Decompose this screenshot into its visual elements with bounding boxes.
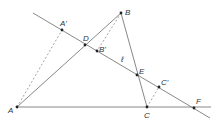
label-C-prime: C'	[161, 78, 169, 87]
point-D	[84, 44, 87, 47]
label-C: C	[144, 111, 150, 120]
side-ab	[17, 13, 121, 107]
point-E	[136, 74, 139, 77]
line-l-label: ℓ	[120, 55, 124, 64]
point-A-prime	[61, 29, 64, 32]
points-layer	[16, 12, 196, 110]
point-B-prime	[96, 50, 99, 53]
point-C-prime	[158, 86, 161, 89]
label-A: A	[7, 106, 13, 115]
line-l	[33, 13, 210, 118]
labels-layer: ABCDEFA'B'C'	[7, 8, 202, 120]
label-B: B	[125, 8, 131, 17]
point-F	[193, 107, 196, 110]
label-B-prime: B'	[99, 45, 106, 54]
side-bc	[121, 13, 147, 107]
lines-layer	[17, 13, 211, 118]
point-B	[120, 12, 123, 15]
label-D: D	[83, 34, 89, 43]
label-E: E	[139, 67, 145, 76]
label-F: F	[196, 97, 202, 106]
point-A	[16, 106, 19, 109]
dash-aa-prime	[17, 30, 62, 107]
dash-cc-prime	[147, 87, 159, 107]
label-A-prime: A'	[59, 19, 67, 28]
geometry-diagram: ABCDEFA'B'C' ℓ	[0, 0, 222, 128]
point-C	[146, 106, 149, 109]
